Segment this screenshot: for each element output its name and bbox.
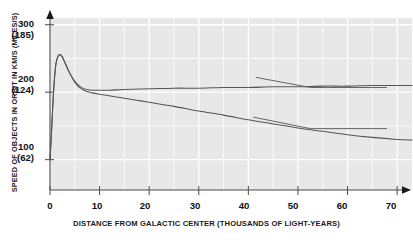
plot-background: [50, 18, 412, 190]
y-axis-arrow-icon: [46, 10, 54, 19]
plot-canvas: [0, 0, 413, 240]
rotation-curve-figure: SPEED OF OBJECTS IN ORBIT IN KM/S (MILES…: [0, 0, 413, 240]
